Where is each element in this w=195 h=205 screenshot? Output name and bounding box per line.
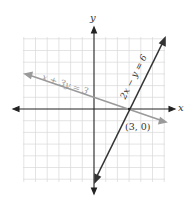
x-axis-left-arrow-icon: [13, 107, 19, 112]
coordinate-plane: [0, 0, 195, 205]
y-axis-down-arrow-icon: [92, 188, 97, 194]
x-axis-label: x: [178, 102, 184, 113]
arrow-icon: [159, 118, 166, 124]
axes: [13, 27, 175, 194]
intersection-point: [128, 108, 130, 110]
arrow-icon: [95, 175, 100, 183]
intersection-label: (3, 0): [125, 121, 151, 132]
y-axis-up-arrow-icon: [92, 27, 97, 33]
arrow-icon: [25, 73, 32, 79]
y-axis-label: y: [90, 12, 96, 23]
x-axis-right-arrow-icon: [169, 107, 175, 112]
